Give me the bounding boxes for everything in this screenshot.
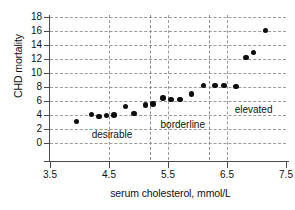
- x-axis-line: [44, 161, 289, 162]
- x-tick-label: 4.5: [94, 170, 124, 180]
- zone-label-desirable: desirable: [92, 130, 133, 140]
- y-tick-mark: [44, 59, 50, 60]
- data-point: [160, 95, 166, 101]
- zone-divider-line: [209, 15, 210, 160]
- y-tick-mark: [44, 87, 50, 88]
- chd-mortality-scatter-chart: CHD mortality serum cholesterol, mmol/L …: [0, 0, 295, 210]
- x-tick-mark: [109, 162, 110, 168]
- y-tick-label: 6: [20, 96, 42, 106]
- y-tick-mark: [44, 143, 50, 144]
- zone-label-borderline: borderline: [161, 120, 205, 130]
- y-tick-mark: [44, 17, 50, 18]
- y-tick-label: 16: [20, 26, 42, 36]
- data-point: [123, 104, 129, 110]
- zone-label-elevated: elevated: [235, 105, 273, 115]
- data-point: [143, 102, 149, 108]
- data-point: [233, 84, 239, 90]
- data-point: [263, 28, 269, 34]
- data-point: [243, 55, 249, 61]
- data-point: [251, 50, 257, 56]
- zone-divider-line: [150, 15, 151, 160]
- x-tick-mark: [286, 162, 287, 168]
- data-point: [96, 114, 102, 120]
- y-tick-mark: [44, 45, 50, 46]
- y-tick-label: 2: [20, 124, 42, 134]
- y-tick-mark: [44, 101, 50, 102]
- x-tick-mark: [227, 162, 228, 168]
- y-tick-label: 8: [20, 82, 42, 92]
- data-point: [74, 119, 80, 125]
- data-point: [131, 111, 137, 117]
- y-tick-label: 4: [20, 110, 42, 120]
- data-point: [168, 97, 174, 103]
- y-tick-label: 0: [20, 138, 42, 148]
- y-tick-label: 10: [20, 68, 42, 78]
- x-tick-mark: [50, 162, 51, 168]
- data-point: [177, 97, 183, 103]
- gridline-vertical: [227, 15, 228, 160]
- data-point: [150, 101, 156, 107]
- data-point: [89, 112, 95, 118]
- y-tick-label: 12: [20, 54, 42, 64]
- y-tick-mark: [44, 129, 50, 130]
- y-tick-mark: [44, 115, 50, 116]
- gridline-vertical: [168, 15, 169, 160]
- x-tick-label: 3.5: [35, 170, 65, 180]
- y-tick-mark: [44, 73, 50, 74]
- data-point: [189, 91, 195, 97]
- y-tick-label: 18: [20, 12, 42, 22]
- x-tick-label: 7.5: [271, 170, 295, 180]
- data-point: [111, 112, 117, 118]
- x-tick-mark: [168, 162, 169, 168]
- x-tick-label: 6.5: [212, 170, 242, 180]
- y-tick-mark: [44, 31, 50, 32]
- y-tick-label: 14: [20, 40, 42, 50]
- x-axis-title: serum cholesterol, mmol/L: [48, 187, 293, 199]
- x-tick-label: 5.5: [153, 170, 183, 180]
